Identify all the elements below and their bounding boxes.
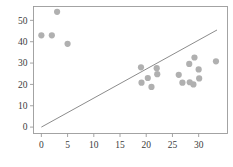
data-point bbox=[179, 80, 185, 86]
plot-canvas: 01020304050 051015202530 bbox=[0, 0, 233, 167]
data-point bbox=[138, 80, 144, 86]
x-tick-label: 30 bbox=[194, 140, 204, 150]
data-point bbox=[138, 64, 144, 70]
data-point bbox=[196, 75, 202, 81]
x-axis-tick-labels: 051015202530 bbox=[39, 140, 204, 150]
data-point bbox=[186, 61, 192, 67]
x-tick-label: 0 bbox=[39, 140, 44, 150]
data-point bbox=[176, 72, 182, 78]
y-tick-label: 20 bbox=[18, 80, 28, 90]
x-axis-ticks bbox=[41, 134, 198, 138]
data-point bbox=[145, 75, 151, 81]
x-tick-label: 15 bbox=[115, 140, 125, 150]
data-point bbox=[190, 81, 196, 87]
x-tick-label: 25 bbox=[168, 140, 178, 150]
data-point bbox=[38, 32, 44, 38]
y-axis-ticks bbox=[30, 20, 34, 127]
data-point bbox=[54, 9, 60, 15]
data-point bbox=[196, 66, 202, 72]
y-tick-label: 30 bbox=[18, 58, 28, 68]
y-axis-tick-labels: 01020304050 bbox=[18, 16, 28, 133]
data-point bbox=[49, 32, 55, 38]
x-tick-label: 5 bbox=[65, 140, 70, 150]
data-point bbox=[148, 84, 154, 90]
x-tick-label: 20 bbox=[141, 140, 151, 150]
data-point bbox=[64, 41, 70, 47]
data-point bbox=[191, 54, 197, 60]
y-tick-label: 0 bbox=[23, 122, 28, 132]
y-tick-label: 50 bbox=[18, 16, 28, 26]
scatter-chart-figure: 01020304050 051015202530 bbox=[0, 0, 233, 167]
y-tick-label: 40 bbox=[18, 37, 28, 47]
data-point bbox=[154, 65, 160, 71]
y-tick-label: 10 bbox=[18, 101, 28, 111]
data-point bbox=[213, 58, 219, 64]
data-point bbox=[154, 71, 160, 77]
x-tick-label: 10 bbox=[89, 140, 99, 150]
